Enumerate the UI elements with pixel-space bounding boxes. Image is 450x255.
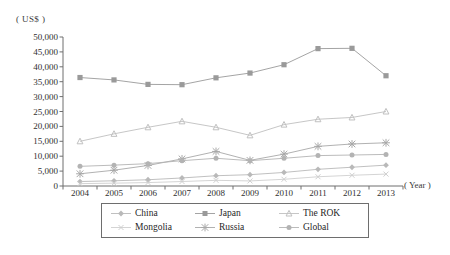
data-point-diamond bbox=[118, 211, 124, 217]
data-point-star bbox=[201, 224, 209, 232]
data-point-square bbox=[383, 73, 388, 78]
series-global bbox=[78, 152, 389, 169]
data-point-triangle bbox=[383, 108, 389, 114]
data-point-circle bbox=[316, 153, 321, 158]
data-point-star bbox=[348, 140, 356, 148]
data-point-star bbox=[382, 139, 390, 147]
data-point-square bbox=[281, 62, 286, 67]
y-tick-label: 45,000 bbox=[6, 47, 58, 57]
star-marker-icon bbox=[194, 222, 216, 233]
plot-area bbox=[63, 37, 403, 186]
y-tick-label: 15,000 bbox=[6, 136, 58, 146]
legend-item-global[interactable]: Global bbox=[278, 221, 362, 234]
cross-marker-icon bbox=[110, 222, 132, 233]
legend-label: Russia bbox=[219, 221, 244, 234]
x-tick-label: 2013 bbox=[366, 188, 406, 198]
data-point-circle bbox=[146, 161, 151, 166]
data-point-square bbox=[213, 75, 218, 80]
series-japan bbox=[77, 46, 388, 88]
series-the-rok bbox=[77, 108, 389, 143]
y-tick-label: 25,000 bbox=[6, 107, 58, 117]
square-marker-icon bbox=[194, 208, 216, 219]
y-tick-label: 10,000 bbox=[6, 151, 58, 161]
data-point-square bbox=[247, 70, 252, 75]
y-axis-unit-label: ( US$ ) bbox=[16, 14, 45, 24]
legend-label: Mongolia bbox=[135, 221, 172, 234]
series-china bbox=[77, 162, 389, 184]
legend-label: Global bbox=[303, 221, 329, 234]
data-point-circle bbox=[180, 158, 185, 163]
x-axis-year-label: ( Year ) bbox=[404, 180, 431, 190]
data-point-square bbox=[203, 211, 208, 216]
data-point-square bbox=[349, 46, 354, 51]
data-point-diamond bbox=[315, 166, 321, 172]
y-tick-label: 30,000 bbox=[6, 92, 58, 102]
legend-label: The ROK bbox=[303, 207, 340, 220]
data-point-star bbox=[212, 148, 220, 156]
data-point-circle bbox=[287, 225, 292, 230]
legend-item-china[interactable]: China bbox=[110, 207, 194, 220]
series-mongolia bbox=[78, 172, 389, 187]
data-point-square bbox=[315, 46, 320, 51]
y-tick-label: 5,000 bbox=[6, 166, 58, 176]
legend-item-japan[interactable]: Japan bbox=[194, 207, 278, 220]
data-point-diamond bbox=[349, 164, 355, 170]
triangle-marker-icon bbox=[278, 208, 300, 219]
data-point-diamond bbox=[281, 170, 287, 176]
y-tick-label: 35,000 bbox=[6, 77, 58, 87]
data-point-circle bbox=[248, 158, 253, 163]
data-point-square bbox=[77, 75, 82, 80]
y-tick-label: 50,000 bbox=[6, 32, 58, 42]
data-point-square bbox=[179, 82, 184, 87]
legend-label: Japan bbox=[219, 207, 241, 220]
data-point-star bbox=[314, 142, 322, 150]
y-tick-label: 20,000 bbox=[6, 121, 58, 131]
y-tick-label: 0 bbox=[6, 181, 58, 191]
chart-root: ( US$ ) ( Year ) 50,00045,00040,00035,00… bbox=[0, 0, 450, 255]
data-point-circle bbox=[282, 156, 287, 161]
data-point-circle bbox=[384, 152, 389, 157]
diamond-marker-icon bbox=[110, 208, 132, 219]
legend-item-mongolia[interactable]: Mongolia bbox=[110, 221, 194, 234]
data-point-circle bbox=[78, 164, 83, 169]
series-russia bbox=[76, 139, 390, 178]
data-point-circle bbox=[214, 156, 219, 161]
data-point-square bbox=[145, 82, 150, 87]
data-point-circle bbox=[350, 153, 355, 158]
legend-item-russia[interactable]: Russia bbox=[194, 221, 278, 234]
y-tick-label: 40,000 bbox=[6, 62, 58, 72]
data-point-diamond bbox=[145, 177, 151, 183]
data-point-diamond bbox=[247, 172, 253, 178]
data-point-diamond bbox=[383, 162, 389, 168]
legend-item-the-rok[interactable]: The ROK bbox=[278, 207, 362, 220]
legend-label: China bbox=[135, 207, 158, 220]
chart-legend: ChinaJapanThe ROKMongoliaRussiaGlobal bbox=[101, 203, 369, 238]
data-point-square bbox=[111, 77, 116, 82]
chart-canvas bbox=[63, 37, 403, 186]
circle-marker-icon bbox=[278, 222, 300, 233]
data-point-circle bbox=[112, 163, 117, 168]
data-point-star bbox=[76, 170, 84, 178]
